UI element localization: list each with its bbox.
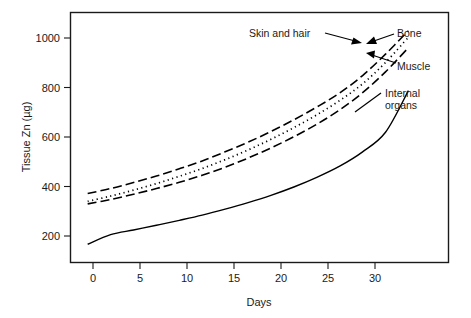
- annotation-label-muscle: Muscle: [397, 60, 430, 72]
- zinc-accretion-line-chart: 1000 800 600 400 200 0 5 10 15 20 25 30 …: [0, 0, 471, 318]
- y-tick-label-800: 800: [42, 82, 60, 94]
- x-tick-label-0: 0: [90, 272, 96, 284]
- arrowhead-skin-and-hair: [351, 38, 362, 45]
- x-tick-label-25: 25: [322, 272, 334, 284]
- y-tick-label-600: 600: [42, 131, 60, 143]
- x-tick-label-5: 5: [137, 272, 143, 284]
- arrowhead-bone: [366, 37, 377, 45]
- x-tick-label-30: 30: [369, 272, 381, 284]
- y-axis-ticks: [64, 38, 71, 236]
- leader-line-skin-and-hair: [325, 33, 357, 42]
- x-tick-label-20: 20: [275, 272, 287, 284]
- y-tick-label-1000: 1000: [36, 32, 60, 44]
- plot-frame: [71, 13, 449, 263]
- figure-container: 1000 800 600 400 200 0 5 10 15 20 25 30 …: [0, 0, 471, 318]
- y-tick-label-400: 400: [42, 181, 60, 193]
- x-axis-ticks: [93, 263, 375, 270]
- annotation-bone: Bone: [366, 27, 422, 44]
- series-line-internal-organs: [88, 91, 409, 245]
- annotation-label-internal-organs-line1: Internal: [385, 87, 420, 99]
- arrowhead-muscle: [366, 51, 375, 59]
- y-axis-title: Tissue Zn (µg): [20, 102, 32, 173]
- annotation-muscle: Muscle: [366, 51, 430, 73]
- x-tick-label-15: 15: [228, 272, 240, 284]
- series-line-bone: [88, 31, 409, 194]
- x-axis-title: Days: [246, 296, 272, 308]
- annotation-skin-and-hair: Skin and hair: [249, 27, 362, 45]
- x-tick-label-10: 10: [181, 272, 193, 284]
- y-tick-label-200: 200: [42, 230, 60, 242]
- series-line-skin-and-hair: [88, 37, 409, 201]
- annotation-label-internal-organs-line2: organs: [385, 99, 417, 111]
- data-series-group: [88, 31, 409, 245]
- annotation-label-bone: Bone: [397, 27, 422, 39]
- annotation-label-skin-and-hair: Skin and hair: [249, 27, 311, 39]
- series-line-muscle: [88, 48, 409, 204]
